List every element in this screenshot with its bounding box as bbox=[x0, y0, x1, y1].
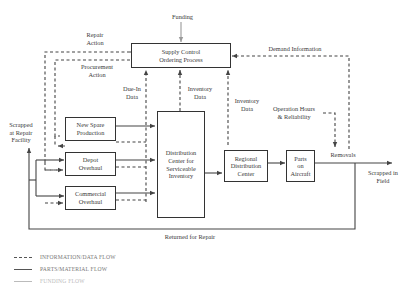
demand-information-label: Demand Information bbox=[255, 45, 335, 53]
regional-distribution-box: Regional Distribution Center bbox=[224, 150, 268, 182]
supply-control-box: Supply Control Ordering Process bbox=[131, 43, 231, 68]
repair-action-label: Repair Action bbox=[75, 31, 115, 46]
scrapped-repair-label: Scrapped at Repair Facility bbox=[2, 121, 40, 144]
depot-overhaul-box: Depot Overhaul bbox=[65, 152, 116, 176]
legend-funding-flow: FUNDING FLOW bbox=[14, 278, 85, 284]
inventory-data-label: Inventory Data bbox=[181, 85, 219, 100]
dashed-line-icon bbox=[14, 257, 32, 258]
legend-label: PARTS/MATERIAL FLOW bbox=[40, 266, 107, 272]
legend-label: FUNDING FLOW bbox=[40, 278, 85, 284]
removals-label: Removals bbox=[325, 151, 361, 159]
new-spare-production-box: New Spare Production bbox=[65, 117, 116, 141]
operation-hours-label: Operation Hours & Reliability bbox=[265, 105, 323, 120]
legend-label: INFORMATION/DATA FLOW bbox=[40, 254, 116, 260]
funding-label: Funding bbox=[160, 13, 205, 21]
legend-parts-flow: PARTS/MATERIAL FLOW bbox=[14, 266, 107, 272]
supply-chain-diagram: Supply Control Ordering Process New Spar… bbox=[0, 0, 410, 291]
commercial-overhaul-box: Commercial Overhaul bbox=[65, 186, 116, 210]
parts-flow-lines bbox=[29, 126, 392, 229]
solid-line-icon bbox=[14, 269, 32, 270]
inventory-data-label-2: Inventory Data bbox=[229, 97, 265, 112]
due-in-data-label: Due-In Data bbox=[119, 85, 145, 100]
scrapped-field-label: Scrapped in Field bbox=[360, 169, 406, 184]
returned-for-repair-label: Returned for Repair bbox=[150, 233, 230, 241]
light-line-icon bbox=[14, 281, 32, 282]
legend-info-flow: INFORMATION/DATA FLOW bbox=[14, 254, 116, 260]
distribution-center-box: Distribution Center for Serviceable Inve… bbox=[157, 111, 205, 218]
procurement-action-label: Procurement Action bbox=[70, 63, 124, 78]
parts-on-aircraft-box: Parts on Aircraft bbox=[286, 150, 315, 182]
